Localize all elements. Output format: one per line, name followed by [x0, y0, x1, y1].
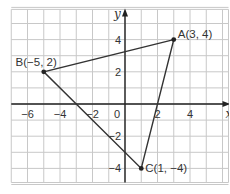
point-b-label: B(−5, 2) — [16, 56, 57, 68]
y-tick-label: 2 — [115, 66, 121, 78]
x-tick-label: −2 — [86, 108, 99, 120]
x-tick-label: −4 — [54, 108, 67, 120]
coordinate-plane: xy −6−4−202442−2−4 A(3, 4)B(−5, 2)C(1, −… — [0, 0, 229, 194]
x-tick-label: 0 — [114, 108, 120, 120]
point-a-marker — [171, 37, 176, 42]
point-b-marker — [41, 69, 46, 74]
x-axis-label: x — [226, 107, 230, 121]
x-tick-label: 4 — [187, 108, 193, 120]
y-tick-label: 4 — [115, 34, 121, 46]
point-a-label: A(3, 4) — [178, 28, 213, 40]
point-c-label: C(1, −4) — [145, 162, 187, 174]
y-axis-label: y — [113, 7, 121, 21]
x-tick-label: −6 — [21, 108, 34, 120]
y-tick-label: −4 — [108, 162, 121, 174]
point-c-marker — [139, 166, 144, 171]
y-tick-label: −2 — [108, 130, 121, 142]
